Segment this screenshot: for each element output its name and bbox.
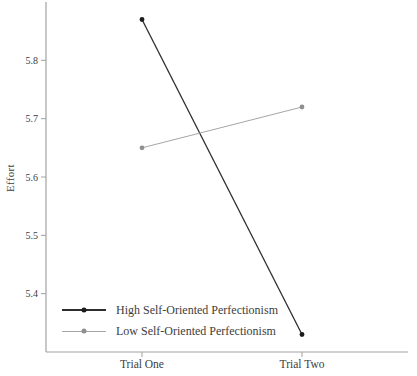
legend-dot-icon	[82, 329, 87, 334]
legend-label: High Self-Oriented Perfectionism	[116, 303, 278, 318]
data-point-low	[140, 145, 145, 150]
legend-item: Low Self-Oriented Perfectionism	[62, 324, 278, 338]
legend-dot-icon	[82, 308, 87, 313]
x-category-label: Trial One	[120, 358, 164, 370]
data-point-high	[140, 17, 145, 22]
y-tick-label: 5.4	[26, 288, 39, 299]
legend-line-sample	[62, 331, 106, 332]
data-point-low	[300, 105, 305, 110]
y-tick-label: 5.6	[26, 172, 39, 183]
perfectionism-effort-line-chart: 5.45.55.65.75.8Trial OneTrial Two Effort…	[0, 0, 417, 376]
data-point-high	[300, 332, 305, 337]
y-tick-label: 5.7	[26, 113, 39, 124]
series-line-low	[142, 107, 302, 148]
y-tick-label: 5.8	[26, 55, 39, 66]
legend: High Self-Oriented PerfectionismLow Self…	[62, 303, 278, 338]
legend-item: High Self-Oriented Perfectionism	[62, 303, 278, 317]
y-tick-label: 5.5	[26, 230, 39, 241]
series-line-high	[142, 20, 302, 335]
legend-label: Low Self-Oriented Perfectionism	[116, 324, 276, 339]
y-axis-title: Effort	[4, 164, 16, 192]
x-category-label: Trial Two	[280, 358, 325, 370]
legend-line-sample	[62, 309, 106, 311]
